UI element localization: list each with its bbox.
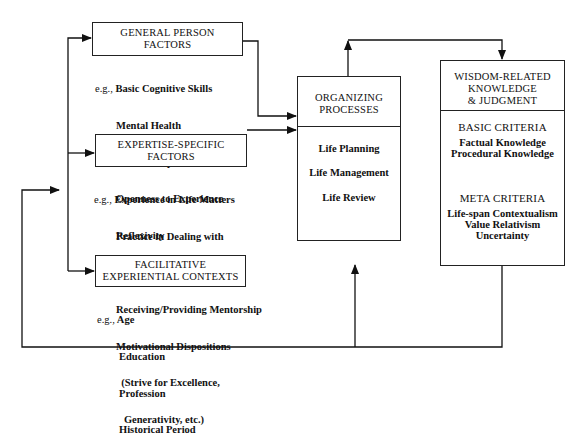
facilitative-title-1: FACILITATIVE xyxy=(96,259,245,271)
general-person-factors-box: GENERAL PERSON FACTORS xyxy=(92,22,243,56)
facilitative-examples: e.g., Age Education Profession Historica… xyxy=(97,290,196,437)
eg-label: e.g., xyxy=(95,83,113,94)
wisdom-title-3: & JUDGMENT xyxy=(441,95,564,107)
list-item: Age xyxy=(117,314,135,325)
meta-criteria-title: META CRITERIA xyxy=(441,192,564,204)
list-item: Basic Cognitive Skills xyxy=(115,83,212,94)
list-item: Procedural Knowledge xyxy=(441,148,564,160)
list-item: Mental Health xyxy=(95,120,223,132)
wisdom-title-2: KNOWLEDGE xyxy=(441,83,564,95)
organizing-processes-box: ORGANIZING PROCESSES Life Planning Life … xyxy=(297,76,401,241)
list-item: Life Planning xyxy=(298,143,400,155)
expertise-title-1: EXPERTISE-SPECIFIC xyxy=(96,139,246,151)
wisdom-knowledge-box: WISDOM-RELATED KNOWLEDGE & JUDGMENT BASI… xyxy=(440,60,565,266)
general-person-title-2: FACTORS xyxy=(93,39,242,51)
expertise-specific-factors-box: EXPERTISE-SPECIFIC FACTORS xyxy=(95,134,247,167)
list-item: Uncertainty xyxy=(441,230,564,242)
list-item: Historical Period xyxy=(97,424,196,436)
eg-label: e.g., xyxy=(97,314,115,325)
list-item: Life Management xyxy=(298,167,400,179)
list-item: Practice in Dealing with xyxy=(94,231,262,243)
organizing-title-2: PROCESSES xyxy=(298,104,400,116)
basic-criteria-title: BASIC CRITERIA xyxy=(441,121,564,133)
eg-label: e.g., xyxy=(94,194,112,205)
facilitative-title-2: EXPERIENTIAL CONTEXTS xyxy=(96,271,245,283)
list-item: Experience in Life Matters xyxy=(114,194,234,205)
general-person-title-1: GENERAL PERSON xyxy=(93,27,242,39)
organizing-title-1: ORGANIZING xyxy=(298,92,400,104)
list-item: Life Review xyxy=(298,192,400,204)
list-item: Education xyxy=(97,351,196,363)
wisdom-title-1: WISDOM-RELATED xyxy=(441,71,564,83)
expertise-title-2: FACTORS xyxy=(96,151,246,163)
facilitative-contexts-box: FACILITATIVE EXPERIENTIAL CONTEXTS xyxy=(95,255,246,287)
list-item: Profession xyxy=(97,388,196,400)
